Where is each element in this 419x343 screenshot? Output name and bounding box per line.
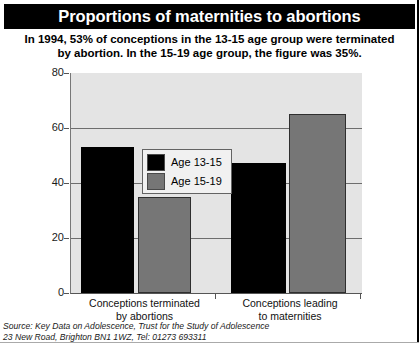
legend-swatch-black (147, 154, 165, 171)
bar-age-15-19-conceptions-terminated (138, 197, 191, 293)
y-tick-mark-80 (64, 73, 69, 74)
source-line-1: Source: Key Data on Adolescence, Trust f… (3, 321, 269, 331)
x-axis-label-group-2: Conceptions leading to maternities (210, 297, 370, 322)
legend: Age 13-15 Age 15-19 (142, 149, 232, 194)
y-tick-label-40: 40 (28, 176, 64, 188)
bar-age-15-19-conceptions-maternities (289, 114, 346, 293)
y-tick-label-60: 60 (28, 121, 64, 133)
page-title: Proportions of maternities to abortions (4, 7, 415, 26)
bar-age-13-15-conceptions-maternities (231, 163, 286, 293)
y-tick-label-0: 0 (28, 286, 64, 298)
chart-figure: Proportions of maternities to abortions … (0, 0, 419, 343)
source-note: Source: Key Data on Adolescence, Trust f… (3, 321, 269, 342)
legend-swatch-grey (147, 173, 165, 190)
legend-item-age-13-15: Age 13-15 (147, 153, 222, 171)
chart-subtitle: In 1994, 53% of conceptions in the 13-15… (8, 33, 411, 60)
y-tick-label-80: 80 (28, 66, 64, 78)
y-tick-mark-0 (64, 293, 69, 294)
y-axis: 80 60 40 20 0 (26, 73, 64, 293)
legend-label-age-15-19: Age 15-19 (171, 175, 222, 187)
x-axis-label-group-2-line-1: Conceptions leading (242, 297, 337, 309)
legend-label-age-13-15: Age 13-15 (171, 156, 222, 168)
x-axis-label-group-2-line-2: to maternities (258, 310, 321, 322)
x-axis-label-group-1-line-1: Conceptions terminated (89, 297, 200, 309)
y-tick-mark-60 (64, 128, 69, 129)
plot-area: Age 13-15 Age 15-19 (70, 73, 362, 294)
y-tick-mark-40 (64, 183, 69, 184)
title-bar: Proportions of maternities to abortions (3, 3, 416, 30)
subtitle-line-2: by abortion. In the 15-19 age group, the… (57, 47, 361, 59)
x-axis-label-group-1: Conceptions terminated by abortions (62, 297, 227, 322)
x-axis-label-group-1-line-2: by abortions (116, 310, 173, 322)
y-tick-mark-20 (64, 238, 69, 239)
y-tick-label-20: 20 (28, 231, 64, 243)
bar-age-13-15-conceptions-terminated (81, 147, 134, 293)
source-line-2: 23 New Road, Brighton BN1 1WZ, Tel: 0127… (3, 332, 207, 342)
subtitle-line-1: In 1994, 53% of conceptions in the 13-15… (24, 33, 394, 45)
legend-item-age-15-19: Age 15-19 (147, 172, 222, 190)
